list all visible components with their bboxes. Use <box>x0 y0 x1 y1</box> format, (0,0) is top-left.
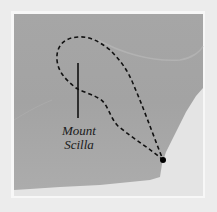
label-line-2: Scilla <box>49 138 109 152</box>
label-line-1: Mount <box>49 124 109 138</box>
route-endpoint-marker <box>160 157 166 163</box>
mount-scilla-label: Mount Scilla <box>49 124 109 152</box>
map-canvas <box>0 0 217 212</box>
